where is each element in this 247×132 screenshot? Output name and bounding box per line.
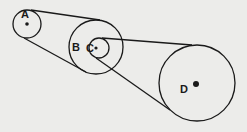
axle-c [94, 46, 97, 49]
axle-d [193, 81, 199, 87]
label-d: D [180, 83, 188, 95]
belt-ab-top [31, 10, 100, 20]
label-c: C [86, 42, 94, 54]
pulley-diagram: A B C D [0, 0, 247, 132]
label-a: A [21, 8, 29, 20]
diagram-canvas: A B C D [0, 0, 247, 132]
axle-a [25, 22, 29, 26]
label-b: B [72, 41, 80, 53]
belt-cd-top [102, 38, 192, 45]
